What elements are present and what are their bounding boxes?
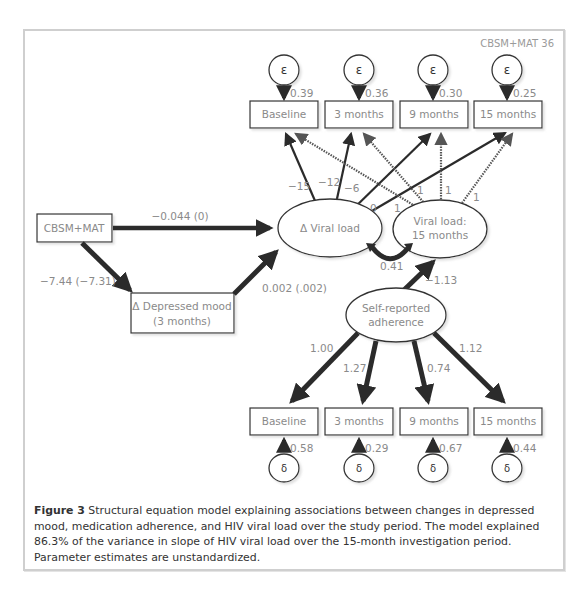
svg-text:(3 months): (3 months) — [153, 315, 211, 327]
top-indicator-9-months: 9 months — [400, 101, 468, 128]
svg-text:Baseline: Baseline — [262, 415, 307, 427]
delta-errors-bottom: 0.58 δ 0.29 δ 0.67 δ 0.44 δ — [269, 440, 537, 482]
svg-text:15 months: 15 months — [412, 229, 468, 241]
svg-text:adherence: adherence — [368, 316, 424, 328]
svg-text:−6: −6 — [344, 182, 360, 194]
svg-text:0.58: 0.58 — [290, 442, 313, 454]
delta-node-2: 0.29 δ — [344, 440, 388, 482]
svg-text:0.41: 0.41 — [380, 260, 403, 272]
svg-text:1: 1 — [445, 184, 452, 196]
bottom-indicators: Baseline 3 months 9 months 15 months — [250, 408, 542, 435]
svg-text:1.00: 1.00 — [310, 342, 333, 354]
svg-text:ε: ε — [356, 63, 363, 77]
epsilon-node-2: ε 0.36 — [344, 55, 389, 99]
svg-text:δ: δ — [504, 463, 510, 474]
top-indicators: Baseline 3 months 9 months 15 months — [250, 101, 542, 128]
svg-text:9 months: 9 months — [409, 415, 459, 427]
depressed-mood-node: Δ Depressed mood (3 months) — [131, 293, 234, 333]
delta-node-3: 0.67 δ — [418, 440, 462, 482]
svg-text:0.002 (.002): 0.002 (.002) — [262, 282, 327, 294]
adherence-node: Self-reported adherence — [346, 288, 446, 342]
top-indicator-15-months: 15 months — [474, 101, 542, 128]
delta-node-1: 0.58 δ — [269, 440, 313, 482]
svg-text:0.44: 0.44 — [513, 442, 537, 454]
svg-text:0.30: 0.30 — [439, 87, 462, 99]
svg-text:0.29: 0.29 — [365, 442, 388, 454]
covariance-dvl-vl15: 0.41 — [366, 243, 413, 272]
svg-text:1.12: 1.12 — [459, 342, 482, 354]
svg-text:ε: ε — [281, 63, 288, 77]
svg-text:δ: δ — [281, 463, 287, 474]
svg-text:0.74: 0.74 — [427, 362, 451, 374]
svg-text:0.25: 0.25 — [513, 87, 536, 99]
top-indicator-3-months: 3 months — [325, 101, 393, 128]
delta-viral-load-node: Δ Viral load — [278, 199, 382, 257]
svg-text:1: 1 — [473, 191, 480, 203]
epsilon-node-3: ε 0.30 — [418, 55, 462, 99]
bottom-indicator-baseline: Baseline — [250, 408, 318, 435]
svg-text:Self-reported: Self-reported — [362, 302, 430, 314]
svg-text:0.39: 0.39 — [290, 87, 313, 99]
svg-text:ε: ε — [430, 63, 437, 77]
figure-label: Figure 3 — [34, 504, 85, 517]
svg-text:1: 1 — [417, 184, 424, 196]
bottom-indicator-3-months: 3 months — [325, 408, 393, 435]
svg-text:Viral load:: Viral load: — [414, 215, 467, 227]
sem-diagram: ε 0.39 ε 0.36 ε 0.30 ε 0.25 Baseline — [0, 0, 587, 590]
svg-text:9 months: 9 months — [409, 108, 459, 120]
svg-text:0.36: 0.36 — [365, 87, 389, 99]
bottom-indicator-15-months: 15 months — [474, 408, 542, 435]
svg-text:δ: δ — [430, 463, 436, 474]
svg-text:−15: −15 — [288, 180, 310, 192]
figure-caption: Figure 3 Structural equation model expla… — [34, 503, 554, 565]
epsilon-errors-top: ε 0.39 ε 0.36 ε 0.30 ε 0.25 — [269, 55, 536, 99]
svg-text:3 months: 3 months — [334, 415, 384, 427]
svg-text:1: 1 — [394, 202, 401, 214]
svg-text:Δ Viral load: Δ Viral load — [300, 222, 360, 234]
path-cbsm-to-mood: −7.44 (−7.31) — [40, 243, 130, 290]
path-adherence-to-vl15: −1.13 — [404, 262, 457, 290]
svg-text:−12: −12 — [318, 176, 340, 188]
delta-node-4: 0.44 δ — [492, 440, 537, 482]
caption-text: Structural equation model explaining ass… — [34, 504, 539, 564]
cbsm-mat-node: CBSM+MAT — [37, 214, 112, 242]
svg-text:Baseline: Baseline — [262, 108, 307, 120]
svg-text:15 months: 15 months — [480, 415, 536, 427]
svg-text:δ: δ — [356, 463, 362, 474]
svg-text:1.27: 1.27 — [343, 362, 366, 374]
epsilon-node-1: ε 0.39 — [269, 55, 313, 99]
svg-text:0.67: 0.67 — [439, 442, 462, 454]
svg-text:−7.44 (−7.31): −7.44 (−7.31) — [40, 275, 116, 287]
svg-text:−0.044 (0): −0.044 (0) — [151, 210, 208, 222]
svg-text:Δ Depressed mood: Δ Depressed mood — [132, 300, 231, 312]
svg-text:15 months: 15 months — [480, 108, 536, 120]
epsilon-node-4: ε 0.25 — [492, 55, 536, 99]
svg-text:3 months: 3 months — [334, 108, 384, 120]
svg-text:−1.13: −1.13 — [425, 274, 457, 286]
bottom-indicator-9-months: 9 months — [400, 408, 468, 435]
path-mood-to-dvl: 0.002 (.002) — [234, 252, 327, 294]
top-indicator-baseline: Baseline — [250, 101, 318, 128]
path-cbsm-to-dvl: −0.044 (0) — [113, 210, 270, 228]
svg-text:CBSM+MAT: CBSM+MAT — [44, 222, 105, 234]
svg-text:ε: ε — [504, 63, 511, 77]
